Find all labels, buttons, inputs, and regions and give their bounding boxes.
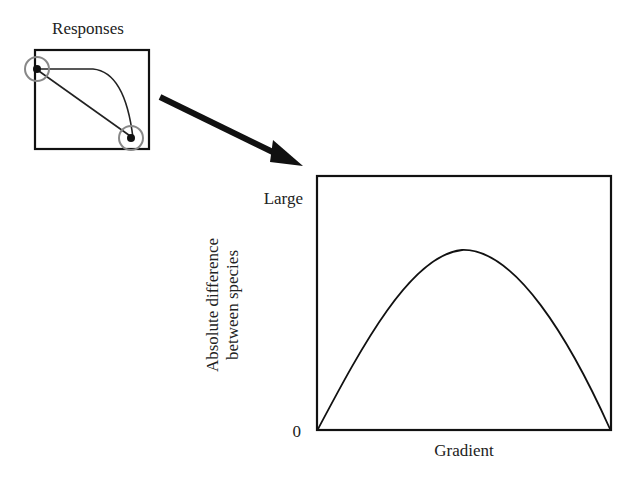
x-axis-label: Gradient (434, 441, 494, 460)
inset-linear-response (36, 69, 133, 138)
difference-curve (318, 250, 610, 429)
plot-frame (317, 176, 611, 430)
y-axis-label: Absolute difference between species (203, 238, 242, 372)
inset-title: Responses (52, 19, 124, 38)
y-tick-zero: 0 (293, 422, 302, 441)
y-tick-large: Large (264, 189, 303, 208)
inset-responses: Responses (25, 19, 149, 150)
diagram-canvas: Responses Large 0 Absolute difference be… (0, 0, 640, 481)
arrow-icon (160, 97, 303, 166)
main-chart: Large 0 Absolute difference between spec… (203, 176, 611, 460)
point-bottom-right (127, 134, 135, 142)
y-axis-label-line1: Absolute difference (203, 238, 222, 372)
y-axis-label-line2: between species (223, 250, 242, 360)
point-top-left (33, 65, 41, 73)
